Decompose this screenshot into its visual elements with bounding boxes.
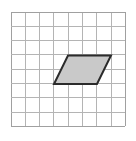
parallelogram-grid-figure [0,0,136,141]
figure-container [0,0,136,141]
